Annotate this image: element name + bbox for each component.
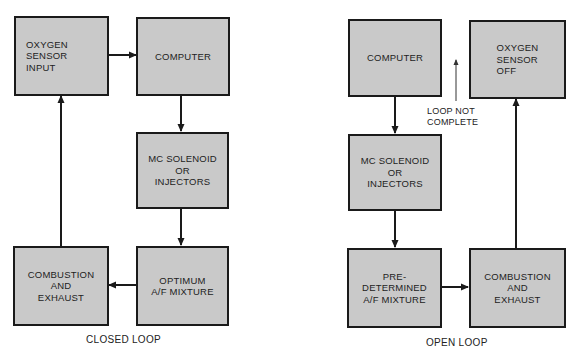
open-loop-caption: OPEN LOOP	[426, 337, 488, 348]
closed-oxygen-sensor-input-box: OXYGEN SENSOR INPUT	[14, 16, 109, 96]
open-mc-solenoid-box: MC SOLENOID OR INJECTORS	[348, 134, 442, 211]
open-oxygen-sensor-off-box: OXYGEN SENSOR OFF	[469, 20, 566, 99]
closed-computer-box: COMPUTER	[136, 17, 230, 96]
loop-not-complete-note: LOOP NOT COMPLETE	[427, 106, 478, 128]
box-label: OXYGEN SENSOR INPUT	[26, 39, 68, 74]
box-label: COMPUTER	[155, 51, 211, 63]
closed-optimum-mixture-box: OPTIMUM A/F MIXTURE	[136, 246, 229, 326]
box-label: MC SOLENOID OR INJECTORS	[361, 155, 430, 190]
open-computer-box: COMPUTER	[348, 19, 442, 97]
open-predetermined-mixture-box: PRE- DETERMINED A/F MIXTURE	[347, 248, 442, 328]
box-label: COMPUTER	[367, 52, 423, 64]
closed-mc-solenoid-box: MC SOLENOID OR INJECTORS	[136, 132, 229, 209]
closed-loop-caption: CLOSED LOOP	[86, 334, 161, 345]
box-label: OPTIMUM A/F MIXTURE	[151, 275, 213, 298]
box-label: COMBUSTION AND EXHAUST	[28, 269, 94, 304]
closed-combustion-box: COMBUSTION AND EXHAUST	[13, 246, 109, 326]
open-combustion-box: COMBUSTION AND EXHAUST	[469, 248, 566, 328]
box-label: OXYGEN SENSOR OFF	[497, 42, 539, 77]
box-label: COMBUSTION AND EXHAUST	[484, 271, 550, 306]
box-label: MC SOLENOID OR INJECTORS	[148, 153, 217, 188]
box-label: PRE- DETERMINED A/F MIXTURE	[362, 271, 427, 306]
